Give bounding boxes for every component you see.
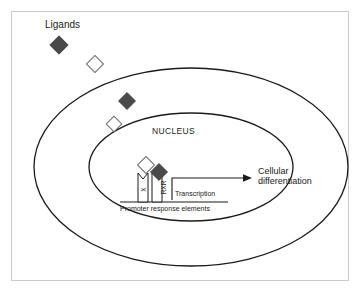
diagram-canvas xyxy=(0,0,360,293)
transcription-arrowhead-icon xyxy=(243,174,252,182)
receptor-left-label: X xyxy=(140,187,147,191)
ligand-diamond-filled-1 xyxy=(50,36,68,54)
ligand-diamond-filled-2 xyxy=(119,93,136,110)
cellular-differentiation-line2: differentiation xyxy=(258,176,312,186)
figure-container: Ligands NUCLEUS Transcription Cellular d… xyxy=(0,0,360,293)
cellular-differentiation-label: Cellular differentiation xyxy=(258,166,312,186)
ligand-diamond-open-1 xyxy=(87,56,104,73)
ligand-diamond-open-2 xyxy=(106,116,122,132)
cellular-differentiation-line1: Cellular xyxy=(258,166,312,176)
promoter-response-elements-label: Promoter response elements xyxy=(120,205,210,213)
nucleus-label: NUCLEUS xyxy=(152,127,195,137)
receptor-right-label: RXR xyxy=(160,181,167,195)
transcription-label: Transcription xyxy=(175,190,215,198)
ligands-label: Ligands xyxy=(45,19,80,30)
